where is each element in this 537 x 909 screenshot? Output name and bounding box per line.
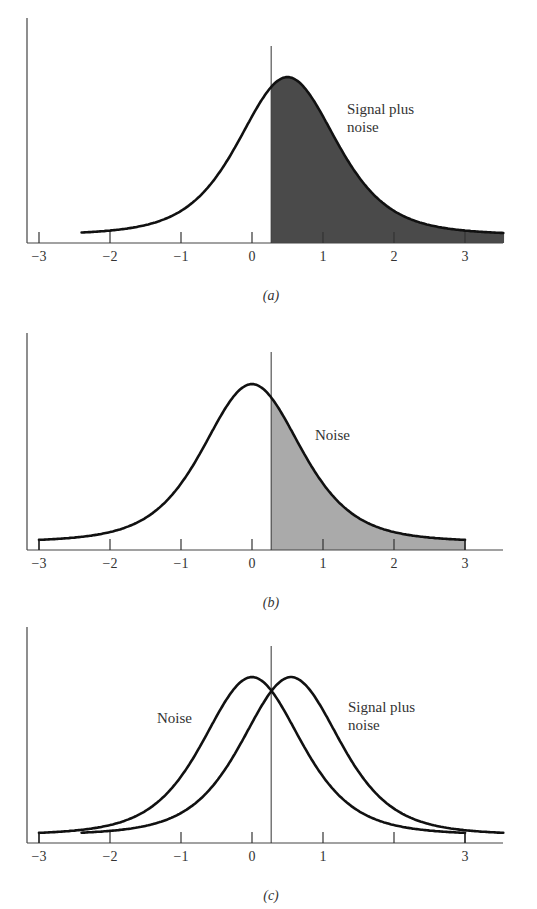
x-tick-label: −3 [32, 556, 47, 572]
panel-caption: (a) [263, 288, 279, 304]
x-tick-label: 2 [391, 556, 398, 572]
x-tick-label: −1 [174, 849, 189, 865]
panel-caption: (b) [263, 595, 279, 611]
curve-label: noise [347, 118, 379, 136]
x-tick-label: 3 [462, 249, 469, 265]
figure-canvas [0, 0, 537, 909]
x-tick-label: 1 [320, 849, 327, 865]
x-tick-label: −1 [174, 249, 189, 265]
x-tick-label: 1 [320, 556, 327, 572]
curve-label: noise [348, 716, 380, 734]
curve-label: Signal plus [348, 698, 415, 716]
distribution-curve [39, 384, 465, 540]
x-tick-label: 2 [391, 249, 398, 265]
x-tick-label: 3 [462, 849, 469, 865]
curve-label: Noise [157, 709, 192, 727]
x-tick-label: −2 [103, 249, 118, 265]
x-tick-label: 0 [249, 556, 256, 572]
x-tick-label: −3 [32, 849, 47, 865]
curve-label: Signal plus [347, 100, 414, 118]
x-tick-label: 0 [249, 249, 256, 265]
shaded-region [271, 397, 465, 550]
x-tick-label: −2 [103, 849, 118, 865]
curve-label: Noise [315, 426, 350, 444]
distribution-curve [82, 677, 504, 833]
x-tick-label: −3 [32, 249, 47, 265]
panel-caption: (c) [263, 888, 279, 904]
x-tick-label: 1 [320, 249, 327, 265]
x-tick-label: 0 [249, 849, 256, 865]
x-tick-label: −1 [174, 556, 189, 572]
x-tick-label: 3 [462, 556, 469, 572]
x-tick-label: −2 [103, 556, 118, 572]
